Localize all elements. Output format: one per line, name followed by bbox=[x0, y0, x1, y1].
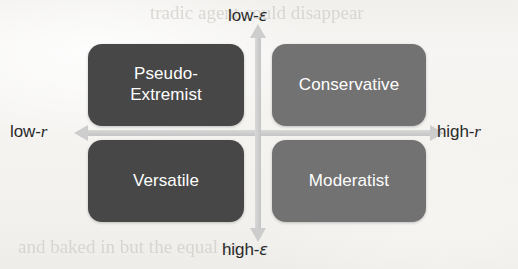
vertical-axis-line bbox=[255, 36, 261, 236]
axis-label-right-symbol: r bbox=[474, 122, 481, 141]
axis-label-top: low-ε bbox=[228, 6, 267, 26]
quadrant-label-moderatist: Moderatist bbox=[303, 171, 395, 192]
axis-arrow-up-icon bbox=[250, 24, 266, 38]
axis-label-right-prefix: high- bbox=[437, 122, 474, 141]
quadrant-box-versatile: Versatile bbox=[88, 140, 244, 222]
axis-label-left-symbol: r bbox=[41, 122, 48, 141]
quadrant-diagram: tradic agent could disappear and baked i… bbox=[0, 0, 518, 269]
quadrant-label-line2: Extremist bbox=[130, 85, 202, 104]
quadrant-box-moderatist: Moderatist bbox=[272, 140, 426, 222]
quadrant-label-conservative: Conservative bbox=[293, 75, 405, 96]
axis-label-top-symbol: ε bbox=[259, 6, 268, 25]
axis-label-left: low-r bbox=[10, 122, 47, 142]
axis-label-top-prefix: low- bbox=[228, 6, 259, 25]
axis-arrow-left-icon bbox=[74, 125, 88, 141]
axis-label-right: high-r bbox=[437, 122, 481, 142]
quadrant-label-pseudo-extremist: Pseudo- Extremist bbox=[124, 64, 208, 105]
axis-label-bottom-prefix: high- bbox=[222, 240, 259, 259]
quadrant-label-versatile: Versatile bbox=[127, 171, 205, 192]
quadrant-box-pseudo-extremist: Pseudo- Extremist bbox=[88, 44, 244, 126]
quadrant-label-line1: Pseudo- bbox=[134, 64, 198, 83]
axis-label-bottom-symbol: ε bbox=[259, 240, 268, 259]
axis-label-left-prefix: low- bbox=[10, 122, 41, 141]
quadrant-box-conservative: Conservative bbox=[272, 44, 426, 126]
axis-label-bottom: high-ε bbox=[222, 240, 268, 260]
